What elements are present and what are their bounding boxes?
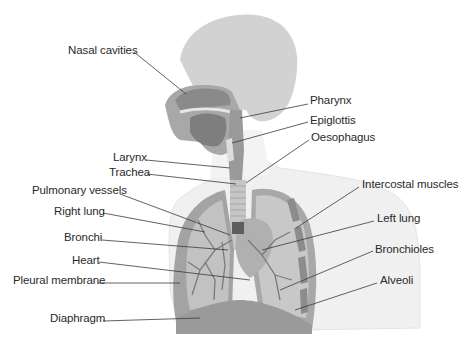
label-intercostal-muscles: Intercostal muscles (362, 178, 459, 191)
leader-nasal-cavities (134, 52, 186, 94)
label-larynx: Larynx (113, 151, 147, 164)
label-epiglottis: Epiglottis (310, 114, 356, 127)
label-pleural-membrane: Pleural membrane (13, 274, 105, 287)
label-trachea: Trachea (109, 166, 150, 179)
label-nasal-cavities: Nasal cavities (68, 44, 138, 57)
label-pulmonary-vessels: Pulmonary vessels (32, 184, 127, 197)
respiratory-system-diagram: Nasal cavities Pharynx Epiglottis Oesoph… (0, 0, 463, 346)
label-bronchi: Bronchi (64, 231, 102, 244)
label-alveoli: Alveoli (380, 274, 413, 287)
label-diaphragm: Diaphragm (50, 312, 105, 325)
label-pharynx: Pharynx (310, 94, 352, 107)
label-bronchioles: Bronchioles (375, 243, 434, 256)
pulmonary-vessel-block (232, 222, 244, 234)
label-heart: Heart (72, 254, 100, 267)
label-oesophagus: Oesophagus (311, 131, 375, 144)
label-right-lung: Right lung (54, 205, 105, 218)
label-left-lung: Left lung (377, 212, 420, 225)
